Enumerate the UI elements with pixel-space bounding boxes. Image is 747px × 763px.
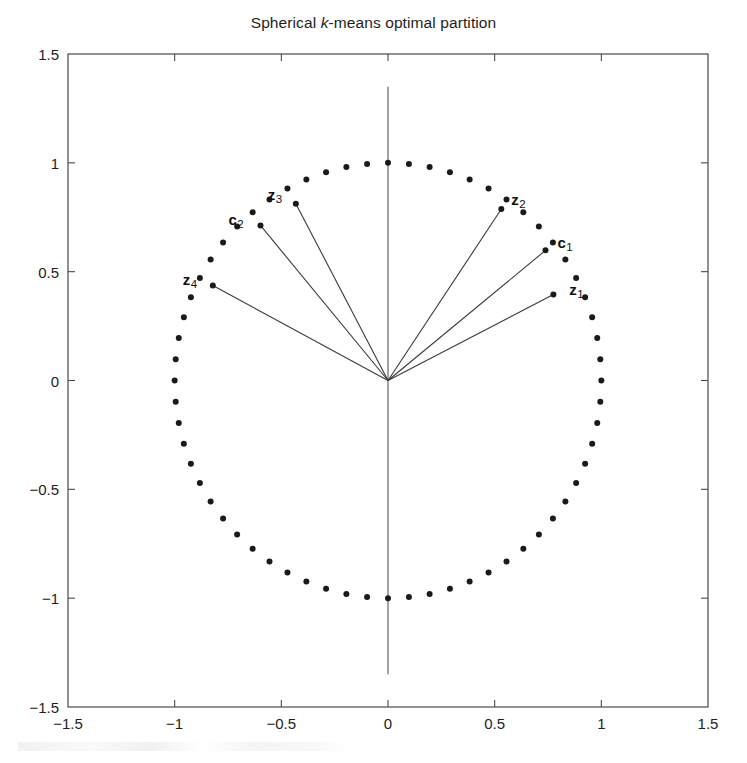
data-point (323, 586, 329, 592)
ray-endpoint-z1 (550, 292, 556, 298)
label-c2: c2 (228, 211, 243, 228)
x-tick-label: −0.5 (267, 715, 297, 732)
data-point (173, 356, 179, 362)
data-point (250, 546, 256, 552)
data-point (220, 239, 226, 245)
caption-smudge (18, 742, 348, 751)
label-z1: z1 (569, 281, 583, 298)
ray-z1 (388, 295, 553, 381)
data-point (303, 176, 309, 182)
label-c1: c1 (558, 234, 573, 251)
label-c2-subscript: 2 (237, 218, 243, 230)
data-point (520, 546, 526, 552)
label-z4-subscript: 4 (191, 278, 197, 290)
data-point (562, 498, 568, 504)
ray-z2 (388, 209, 501, 380)
x-tick-label: −1.5 (53, 715, 83, 732)
ray-endpoint-c2 (257, 222, 263, 228)
data-point (385, 160, 391, 166)
data-point (176, 420, 182, 426)
label-z2-symbol: z (511, 191, 519, 208)
label-z2: z2 (511, 191, 525, 208)
label-c1-subscript: 1 (566, 241, 572, 253)
data-point (486, 186, 492, 192)
data-point (284, 186, 290, 192)
data-point (589, 441, 595, 447)
data-point (594, 420, 600, 426)
label-z2-subscript: 2 (519, 198, 525, 210)
data-point (364, 161, 370, 167)
data-point (573, 480, 579, 486)
label-z1-subscript: 1 (577, 288, 583, 300)
data-point (406, 594, 412, 600)
data-point (536, 224, 542, 230)
data-point (220, 516, 226, 522)
ray-c2 (260, 225, 388, 380)
data-point (562, 257, 568, 263)
data-point (197, 275, 203, 281)
ray-endpoint-z3 (293, 201, 299, 207)
label-z4-symbol: z (183, 271, 191, 288)
data-point (504, 197, 510, 203)
y-tick-label: −1.5 (29, 699, 59, 716)
data-point (504, 558, 510, 564)
label-z4: z4 (183, 271, 197, 288)
data-point (188, 294, 194, 300)
data-point (447, 586, 453, 592)
data-point (589, 314, 595, 320)
y-tick-label: −1 (42, 590, 59, 607)
ray-endpoint-z2 (498, 206, 504, 212)
data-point (284, 569, 290, 575)
label-c2-symbol: c (228, 211, 236, 228)
scatter-plot-canvas (0, 0, 747, 763)
y-tick-label: 1 (51, 154, 59, 171)
figure-container: Spherical k-means optimal partition 1.51… (0, 0, 747, 763)
data-point (467, 579, 473, 585)
data-point (323, 169, 329, 175)
ray-z3 (296, 204, 388, 381)
y-tick-label: 0.5 (38, 263, 59, 280)
data-point (364, 594, 370, 600)
data-point (197, 480, 203, 486)
label-z1-symbol: z (569, 281, 577, 298)
x-tick-label: 0 (384, 715, 392, 732)
x-tick-label: 1 (597, 715, 605, 732)
data-point (520, 209, 526, 215)
data-point (303, 579, 309, 585)
data-point (234, 531, 240, 537)
data-point (467, 176, 473, 182)
data-point (208, 498, 214, 504)
y-tick-label: 0 (51, 372, 59, 389)
data-point (181, 441, 187, 447)
data-point (172, 378, 178, 384)
label-z3-symbol: z (268, 186, 276, 203)
data-point (536, 531, 542, 537)
data-point (427, 591, 433, 597)
data-point (250, 209, 256, 215)
y-tick-label: −0.5 (29, 481, 59, 498)
data-point (550, 239, 556, 245)
y-tick-label: 1.5 (38, 46, 59, 63)
ray-z4 (213, 285, 388, 380)
x-tick-label: 1.5 (698, 715, 719, 732)
x-tick-label: 0.5 (484, 715, 505, 732)
data-point (188, 461, 194, 467)
partition-rays (210, 201, 557, 381)
ray-c1 (388, 250, 546, 380)
data-point (343, 591, 349, 597)
data-point (406, 161, 412, 167)
label-z3-subscript: 3 (276, 193, 282, 205)
data-point (181, 314, 187, 320)
data-point (597, 399, 603, 405)
data-point (208, 257, 214, 263)
data-point (597, 356, 603, 362)
data-point (266, 558, 272, 564)
data-point (427, 164, 433, 170)
label-c1-symbol: c (558, 234, 566, 251)
data-point (385, 595, 391, 601)
data-point (598, 378, 604, 384)
x-tick-label: −1 (166, 715, 183, 732)
label-z3: z3 (268, 186, 282, 203)
data-point (486, 569, 492, 575)
ray-endpoint-z4 (210, 282, 216, 288)
